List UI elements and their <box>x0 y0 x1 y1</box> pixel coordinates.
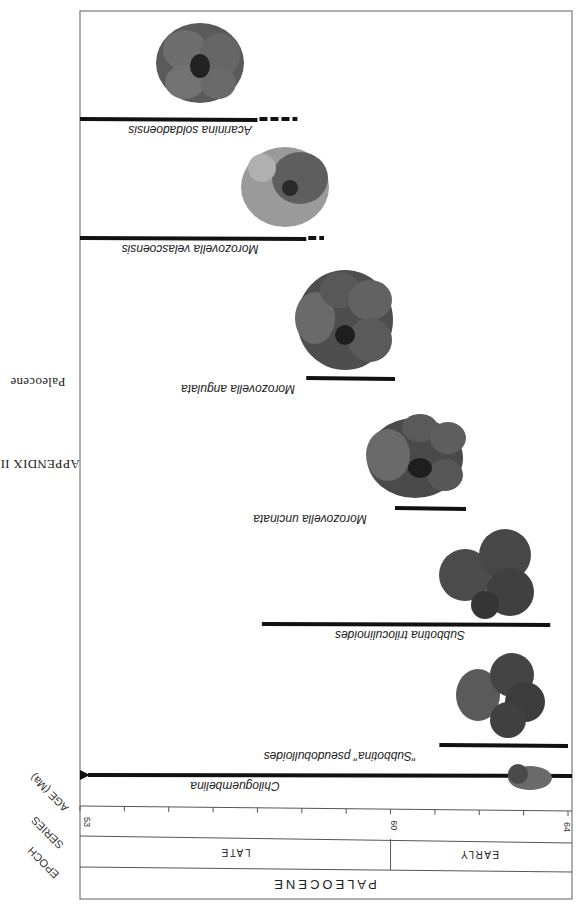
specimen-subbotina-pseudobulloides <box>456 653 545 738</box>
taxon-label: Morozovella uncinata <box>253 512 367 526</box>
specimen-morozovella-uncinata <box>366 414 466 498</box>
age-tick-label: 64 <box>562 822 572 832</box>
taxon-label: Acarinina soldadoensis <box>128 123 252 137</box>
specimen-morozovella-velascoensis <box>241 147 329 227</box>
series-band-label: EARLY <box>459 849 499 860</box>
range-chart: 536064 LATEEARLYPALEOCENE Acarinina sold… <box>0 0 584 905</box>
age-row-label: AGE (Ma) <box>28 771 71 814</box>
taxon-label: Morozovella velascoensis <box>122 242 259 256</box>
range-bar <box>80 119 257 120</box>
specimen-morozovella-angulata <box>295 270 393 370</box>
stratigraphic-bands: LATEEARLYPALEOCENE <box>220 839 499 891</box>
specimen-acarinina-soldadoensis <box>156 23 244 103</box>
range-bar <box>262 624 550 625</box>
chart-frame <box>80 11 572 899</box>
range-bar <box>80 238 306 239</box>
taxon-label: Morozovella angulata <box>181 382 295 396</box>
age-axis-line <box>80 806 572 811</box>
series-row-top <box>80 836 572 843</box>
taxon-label: Subbotina triloculinoides <box>335 628 465 642</box>
range-bar-chiloguembelina <box>88 775 572 776</box>
epoch-row-top <box>80 867 572 872</box>
range-bar <box>439 745 568 746</box>
series-band-label: LATE <box>220 847 250 858</box>
specimen-subbotina-triloculinoides <box>439 529 534 619</box>
range-bar <box>395 508 466 509</box>
age-tick-label: 60 <box>389 820 399 830</box>
specimen-chiloguembelina <box>508 764 552 790</box>
range-bar <box>306 378 395 379</box>
age-tick-label: 53 <box>82 817 92 827</box>
taxon-label: "Subbotina" pseudobulloides <box>264 749 417 763</box>
epoch-band-label: PALEOCENE <box>271 877 377 892</box>
taxon-label: Chiloguembelina <box>190 779 280 793</box>
